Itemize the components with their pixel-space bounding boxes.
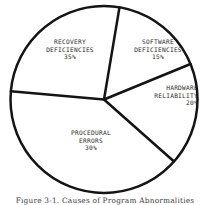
slice-label-line2: ERRORS <box>52 137 130 145</box>
slice-percent-value: 35% <box>31 53 109 61</box>
slice-label-procedural-errors: PROCEDURAL ERRORS 30% <box>52 129 130 152</box>
slice-label-line2: DEFICIENCIES <box>120 46 196 54</box>
slice-label-line1: HARDWARE <box>122 84 198 92</box>
slice-label-line2: RELIABILITY <box>122 92 198 100</box>
figure-caption: Figure 3-1. Causes of Program Abnormalit… <box>0 196 210 205</box>
divider-procedural-recovery <box>11 91 104 99</box>
slice-label-line1: PROCEDURAL <box>52 129 130 137</box>
slice-label-software-deficiencies: SOFTWARE DEFICIENCIES 15% <box>120 38 196 61</box>
slice-percent-value: 15% <box>120 53 196 61</box>
slice-label-hardware-reliability: HARDWARE RELIABILITY 20% <box>122 84 198 107</box>
slice-label-recovery-deficiencies: RECOVERY DEFICIENCIES 35% <box>31 38 109 61</box>
slice-percent-value: 20% <box>122 99 198 107</box>
slice-label-line1: RECOVERY <box>31 38 109 46</box>
slice-label-line2: DEFICIENCIES <box>31 46 109 54</box>
pie-chart-figure: RECOVERY DEFICIENCIES 35% SOFTWARE DEFIC… <box>0 0 210 205</box>
slice-percent-value: 30% <box>52 144 130 152</box>
slice-label-line1: SOFTWARE <box>120 38 196 46</box>
